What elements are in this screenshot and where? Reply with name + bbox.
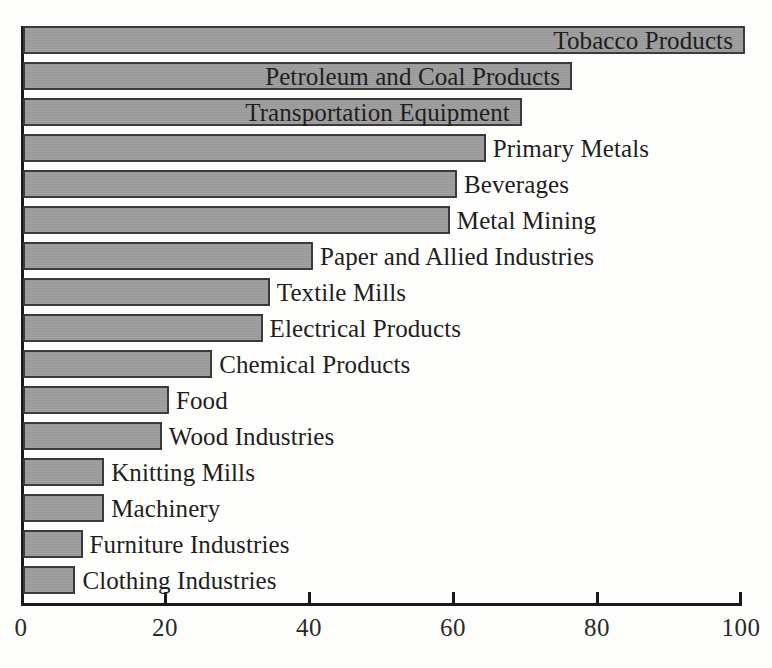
bar-row: Metal Mining: [0, 206, 772, 236]
bar-row: Clothing Industries: [0, 566, 772, 596]
bar-row: Tobacco Products: [0, 26, 772, 56]
bar-row: Textile Mills: [0, 278, 772, 308]
bar-category-label: Food: [167, 388, 228, 413]
bar-category-label: Petroleum and Coal Products: [265, 64, 570, 89]
bar-category-label: Machinery: [102, 496, 220, 521]
bar: [23, 314, 263, 342]
bar: [23, 134, 486, 162]
bar: [23, 170, 457, 198]
bar: [23, 494, 104, 522]
bar-category-label: Tobacco Products: [553, 28, 743, 53]
x-axis-tick-label: 80: [584, 614, 610, 642]
bar-row: Petroleum and Coal Products: [0, 62, 772, 92]
bar-category-label: Paper and Allied Industries: [311, 244, 594, 269]
x-axis-tick-label: 40: [296, 614, 322, 642]
bar: [23, 458, 104, 486]
bar: [23, 530, 83, 558]
bar-category-label: Electrical Products: [261, 316, 461, 341]
x-axis-tick-label: 100: [722, 614, 761, 642]
bar-row: Knitting Mills: [0, 458, 772, 488]
x-axis-line: [21, 603, 742, 606]
bar-row: Primary Metals: [0, 134, 772, 164]
x-axis-tick-label: 0: [15, 614, 28, 642]
bar-row: Machinery: [0, 494, 772, 524]
bar-category-label: Knitting Mills: [102, 460, 255, 485]
bar-category-label: Clothing Industries: [73, 568, 276, 593]
bar: [23, 206, 450, 234]
bar-row: Beverages: [0, 170, 772, 200]
bar-category-label: Transportation Equipment: [245, 100, 520, 125]
bar-row: Wood Industries: [0, 422, 772, 452]
bar-category-label: Primary Metals: [484, 136, 649, 161]
bar-category-label: Chemical Products: [210, 352, 410, 377]
bar: [23, 242, 313, 270]
bar: [23, 350, 212, 378]
x-axis-tick-label: 60: [440, 614, 466, 642]
bar-row: Electrical Products: [0, 314, 772, 344]
bar-category-label: Beverages: [455, 172, 569, 197]
bar-row: Chemical Products: [0, 350, 772, 380]
bar: [23, 422, 162, 450]
chart-page: 020406080100 Tobacco ProductsPetroleum a…: [0, 0, 772, 668]
bar-category-label: Wood Industries: [160, 424, 334, 449]
bar-row: Food: [0, 386, 772, 416]
bar-category-label: Metal Mining: [448, 208, 596, 233]
x-axis-tick-label: 20: [152, 614, 178, 642]
bar-row: Transportation Equipment: [0, 98, 772, 128]
bar-chart: 020406080100 Tobacco ProductsPetroleum a…: [0, 0, 772, 668]
bar-row: Furniture Industries: [0, 530, 772, 560]
bar: [23, 566, 75, 594]
bar-category-label: Textile Mills: [268, 280, 406, 305]
bar-row: Paper and Allied Industries: [0, 242, 772, 272]
bar-category-label: Furniture Industries: [81, 532, 290, 557]
bar: [23, 386, 169, 414]
bar: [23, 278, 270, 306]
